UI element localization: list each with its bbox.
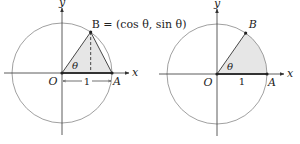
point-b-label: B = (cos θ, sin θ) [92,18,187,31]
origin-label: O [203,76,212,89]
diagram-canvas: y x O A B = (cos θ, sin θ) θ 1 y x O A B… [0,0,300,144]
point-b [244,31,247,34]
point-o [60,71,63,74]
point-a-label: A [112,75,121,88]
angle-label: θ [72,60,78,71]
y-axis-label: y [58,0,66,9]
point-a-label: A [267,76,276,89]
point-b-label: B [248,18,257,31]
shaded-sector [217,33,267,74]
origin-label: O [48,75,57,88]
radius-label: 1 [84,76,90,87]
x-axis-label: x [287,67,294,80]
y-axis-label: y [213,0,221,10]
angle-label: θ [227,61,233,72]
point-o [215,72,218,75]
radius-label: 1 [239,76,245,87]
x-axis-label: x [132,66,139,79]
shaded-triangle [62,32,112,73]
figure-left: y x O A B = (cos θ, sin θ) θ 1 [4,0,186,135]
